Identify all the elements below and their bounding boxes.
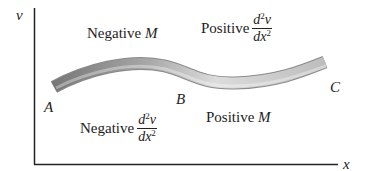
region-positive-curvature-label: Positive d2v dx2 — [201, 12, 272, 44]
second-derivative-fraction: d2v dx2 — [137, 112, 157, 144]
region-positive-moment-label: Positive M — [206, 110, 271, 125]
second-derivative-fraction: d2v dx2 — [252, 12, 272, 44]
point-a-label: A — [44, 100, 53, 115]
point-b-label: B — [176, 92, 185, 107]
region-negative-moment-label: Negative M — [87, 26, 157, 41]
y-axis-label: v — [16, 8, 23, 23]
x-axis-label: x — [343, 157, 350, 171]
beam-diagram-canvas — [0, 0, 365, 171]
point-c-label: C — [330, 80, 340, 95]
region-negative-curvature-label: Negative d2v dx2 — [80, 112, 157, 144]
